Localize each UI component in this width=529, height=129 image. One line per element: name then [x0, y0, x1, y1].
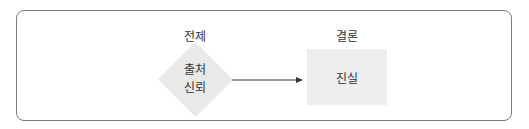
arrow-edge	[0, 0, 529, 129]
conclusion-node-text: 진실	[307, 69, 387, 86]
arrowhead-icon	[296, 77, 303, 83]
